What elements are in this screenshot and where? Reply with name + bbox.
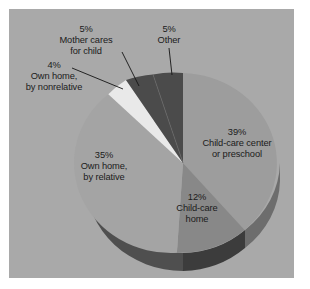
pie-label-pct: 39% — [178, 127, 296, 138]
pie-label-desc-line1: Child-care center — [178, 138, 296, 149]
pie-label-child-care-center: 39% Child-care center or preschool — [178, 127, 296, 161]
pie-label-pct: 35% — [58, 150, 150, 161]
pie-label-desc-line1: Other — [140, 35, 198, 46]
pie-label-desc-line1: Own home, — [6, 71, 102, 82]
pie-label-pct: 4% — [6, 60, 102, 71]
pie-label-own-home-nonrelative: 4% Own home, by nonrelative — [6, 60, 102, 94]
pie-label-desc-line2: by nonrelative — [6, 82, 102, 93]
pie-label-desc-line2: by relative — [58, 172, 150, 183]
pie-label-desc-line2: for child — [40, 46, 132, 57]
pie-label-pct: 12% — [155, 192, 239, 203]
pie-label-own-home-relative: 35% Own home, by relative — [58, 150, 150, 184]
pie-label-mother-cares-for-child: 5% Mother cares for child — [40, 24, 132, 58]
pie-label-pct: 5% — [140, 24, 198, 35]
pie-label-child-care-home: 12% Child-care home — [155, 192, 239, 226]
pie-label-desc-line1: Child-care — [155, 203, 239, 214]
pie-label-desc-line2: home — [155, 214, 239, 225]
pie-label-desc-line1: Own home, — [58, 161, 150, 172]
pie-label-desc-line1: Mother cares — [40, 35, 132, 46]
pie-label-other: 5% Other — [140, 24, 198, 46]
chart-figure: 5% Mother cares for child 5% Other 4% Ow… — [0, 0, 310, 289]
pie-label-desc-line2: or preschool — [178, 149, 296, 160]
leader-line-other — [169, 48, 172, 75]
pie-label-pct: 5% — [40, 24, 132, 35]
